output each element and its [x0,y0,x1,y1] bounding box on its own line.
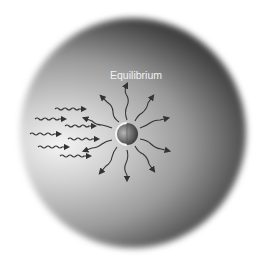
planet-sphere [116,123,138,145]
radiation-diagram [0,0,260,264]
